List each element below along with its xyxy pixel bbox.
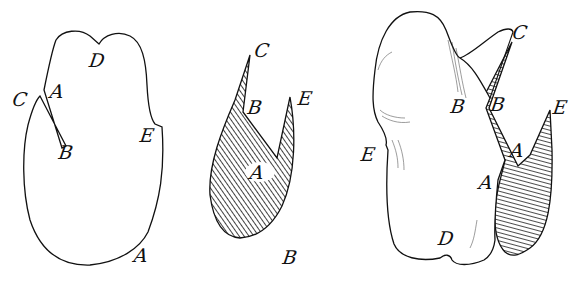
figure-2-label-c: C (253, 41, 270, 60)
figure-1-label-a-bottom: A (133, 246, 149, 265)
figure-2-label-b-bottom: B (282, 248, 299, 267)
diagram-canvas: C A D B E A C B E A B C B B E E A A D (0, 0, 584, 282)
figure-3-label-b-left: B (450, 97, 467, 116)
figure-3-label-a-upper: A (509, 141, 525, 160)
figure-3-label-d: D (437, 229, 455, 248)
figure-1-label-a-top: A (49, 82, 65, 101)
figure-3-label-e-left: E (360, 145, 377, 164)
figure-3-label-e-right: E (552, 98, 569, 117)
figure-1-label-c: C (11, 90, 28, 109)
figure-2-hatched-piece (210, 55, 294, 238)
figure-3-label-c: C (511, 23, 528, 42)
figure-1-label-d: D (88, 51, 106, 70)
diagram-drawing (0, 0, 584, 282)
figure-1-label-e: E (139, 126, 156, 145)
figure-3-label-a-lower: A (478, 173, 494, 192)
figure-2-label-e: E (297, 89, 314, 108)
figure-2-label-b-top: B (247, 98, 264, 117)
figure-3-label-b-right: B (490, 95, 507, 114)
figure-1-label-b: B (58, 143, 75, 162)
figure-2-label-a: A (249, 163, 265, 182)
